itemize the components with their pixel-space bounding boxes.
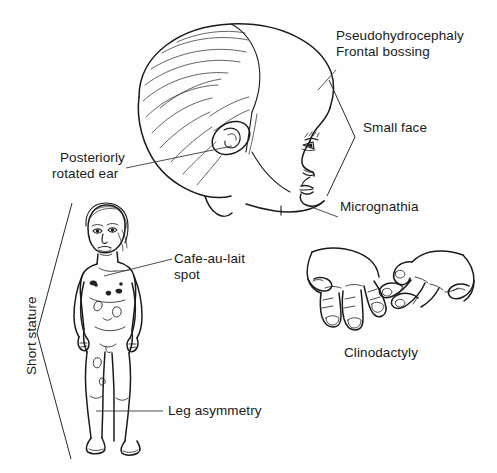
right-hand-wrist-top: [412, 251, 463, 262]
right-hand-palm-edge: [445, 288, 458, 292]
ear-drawing: [206, 115, 256, 162]
left-hand-crease-2a: [323, 298, 333, 300]
hairline-front: [231, 24, 260, 112]
leader-micrognathia: [306, 205, 338, 217]
nose-profile: [302, 141, 314, 176]
short-stature-bracket: [37, 203, 72, 459]
hair-strand-2: [151, 49, 246, 69]
label-frontal-bossing: Frontal bossing: [336, 44, 430, 61]
child-mouth: [98, 247, 111, 249]
child-leg-left-outer: [86, 352, 92, 438]
child-leg-right-inner: [112, 353, 114, 441]
cafe-au-lait-spot-2: [115, 289, 122, 294]
right-hand-nail-3: [382, 288, 392, 296]
left-hand-digit-edge: [369, 259, 379, 277]
upper-lip: [301, 186, 313, 188]
right-hand-knuckle-1: [415, 277, 428, 283]
cafe-au-lait-spot-3: [94, 301, 102, 310]
left-hand-crease-3b: [344, 306, 355, 308]
child-belly-crease: [95, 327, 125, 331]
hair-strand-10: [197, 156, 221, 185]
hair-strand-7: [160, 112, 210, 148]
child-brow-right: [107, 224, 118, 226]
nostril: [303, 173, 313, 175]
right-hand-knuckle-2: [430, 284, 443, 290]
left-hand-crease-2b: [322, 306, 333, 308]
cranium-outline: [139, 24, 334, 108]
mouth-line: [300, 189, 313, 190]
child-head-outline: [88, 205, 125, 253]
child-hip-left: [84, 329, 87, 352]
label-pseudohydrocephaly: Pseudohydrocephaly: [336, 28, 464, 45]
child-chin: [100, 254, 112, 256]
child-fingers-left: [80, 343, 87, 347]
leader-rotated-ear: [126, 146, 232, 168]
child-pupil-right: [111, 228, 115, 232]
child-ribline: [90, 298, 125, 302]
child-figure-drawing: [37, 203, 172, 459]
left-hand-crease-4b: [370, 297, 380, 300]
hair-strand-11: [210, 97, 249, 116]
child-pupil-left: [96, 229, 100, 233]
label-cafe-au-lait-spot: spot: [174, 267, 200, 284]
child-leg-right-outer: [125, 353, 131, 441]
philtrum: [302, 177, 310, 185]
ear-antihelix: [224, 128, 240, 148]
left-hand-nail-2: [326, 316, 339, 325]
label-small-face: Small face: [363, 120, 427, 137]
child-toes-right: [123, 450, 138, 452]
cafe-au-lait-spot-5: [93, 358, 101, 368]
leader-cafe-au-lait: [104, 259, 172, 276]
nape-contour: [205, 196, 232, 216]
child-neck-right: [117, 252, 118, 262]
child-neck-left: [97, 254, 98, 264]
child-torso-left: [80, 264, 97, 329]
child-knee-left: [90, 396, 102, 398]
child-knee-right: [116, 398, 128, 400]
left-hand-nail-5: [313, 280, 323, 282]
brow-ridge: [305, 139, 318, 141]
child-hip-right: [129, 330, 132, 353]
small-face-bracket: [327, 80, 355, 196]
hair-strand-9: [183, 142, 216, 174]
child-foot-left: [86, 438, 104, 454]
left-hand-knuckle-1: [325, 287, 341, 289]
child-groin: [100, 344, 116, 347]
label-micrognathia: Micrognathia: [340, 199, 419, 216]
hair-strand-5: [146, 85, 218, 117]
label-clinodactyly: Clinodactyly: [344, 345, 418, 362]
left-hand-wrist-top: [312, 248, 369, 259]
hands-drawing: [307, 248, 474, 330]
ear-helix: [206, 115, 256, 162]
child-hair: [86, 203, 128, 243]
child-clavicle-left: [99, 268, 115, 271]
child-hair-strand-2: [92, 207, 119, 212]
eyelash-4: [317, 133, 319, 137]
cafe-au-lait-spot-7: [106, 291, 112, 296]
left-hand-crease-3a: [345, 297, 355, 299]
eyelash-1: [305, 133, 308, 137]
child-foot-right: [121, 441, 140, 455]
right-hand-digit-little: [421, 288, 439, 307]
child-navel: [103, 318, 112, 320]
cheek-contour: [252, 152, 290, 192]
cafe-au-lait-spot-6: [99, 378, 105, 385]
lower-lip: [301, 192, 313, 194]
child-mouth-lower: [99, 250, 111, 252]
hair-strand-4: [143, 73, 228, 101]
right-hand-digit-4: [391, 283, 425, 308]
label-short-stature: Short stature: [24, 296, 41, 375]
child-brow-left: [92, 225, 103, 227]
clinical-features-figure: Pseudohydrocephaly Frontal bossing Small…: [0, 0, 497, 473]
label-posteriorly: Posteriorly: [60, 150, 125, 167]
occiput-contour: [138, 97, 231, 198]
left-hand-crease-4a: [368, 289, 377, 292]
label-leg-asymmetry: Leg asymmetry: [168, 403, 262, 420]
right-hand-dorsum: [463, 255, 474, 301]
ear-concha: [228, 134, 236, 140]
right-hand-nail-2: [395, 270, 405, 278]
right-hand-nail-4: [395, 299, 405, 307]
cafe-au-lait-spot-1: [90, 281, 98, 286]
left-hand-nail-3: [348, 318, 361, 328]
child-nose: [102, 234, 107, 243]
